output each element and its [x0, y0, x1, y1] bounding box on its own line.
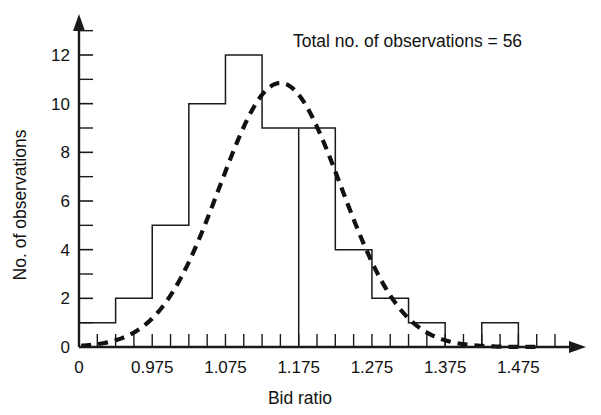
- y-tick-label: 8: [61, 143, 70, 162]
- normal-fit-curve: [81, 83, 536, 347]
- y-tick-label: 0: [61, 338, 70, 357]
- y-axis-ticks: [79, 31, 93, 347]
- x-axis-arrowhead: [569, 341, 586, 353]
- x-tick-label: 1.475: [497, 358, 540, 377]
- y-axis-tick-labels: 024681012: [51, 46, 70, 357]
- x-tick-label: 1.375: [424, 358, 467, 377]
- y-tick-label: 12: [51, 46, 70, 65]
- axes: [73, 14, 586, 353]
- y-axis-title: No. of observations: [10, 129, 30, 280]
- total-observations-annotation: Total no. of observations = 56: [293, 31, 522, 51]
- y-tick-label: 4: [61, 241, 70, 260]
- x-tick-label: 1.175: [277, 358, 320, 377]
- histogram-chart: No. of observations Bid ratio Total no. …: [0, 0, 601, 415]
- histogram-bars: [79, 55, 518, 347]
- x-axis-tick-labels: 00.9751.0751.1751.2751.3751.475: [74, 358, 539, 377]
- y-axis-arrowhead: [73, 14, 85, 31]
- chart-figure: No. of observations Bid ratio Total no. …: [0, 0, 601, 415]
- x-tick-label: 1.075: [204, 358, 247, 377]
- x-axis-ticks: [97, 334, 555, 347]
- x-axis-title: Bid ratio: [268, 388, 332, 408]
- x-tick-label: 1.275: [351, 358, 394, 377]
- y-tick-label: 6: [61, 192, 70, 211]
- y-tick-label: 2: [61, 289, 70, 308]
- x-tick-label: 0: [74, 358, 83, 377]
- x-tick-label: 0.975: [131, 358, 174, 377]
- y-tick-label: 10: [51, 95, 70, 114]
